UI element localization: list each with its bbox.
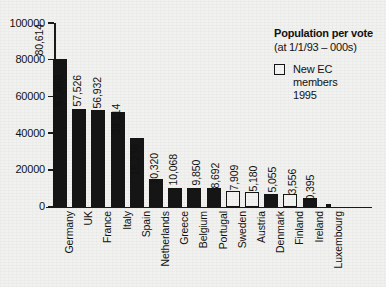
bar-value-label: 80,614: [34, 24, 45, 56]
bar-value-label: 57,959: [53, 75, 64, 107]
legend-entry-line-1: New EC: [293, 63, 337, 76]
x-axis-category-label: Greece: [179, 211, 190, 245]
bar-finland: 5,055: [283, 194, 297, 206]
legend-title: Population per vote: [274, 27, 373, 40]
bar-value-label: 7,909: [229, 164, 240, 190]
legend-swatch-hollow: [274, 64, 285, 75]
legend-entry-line-3: 1995: [293, 89, 337, 102]
x-axis-category-label: Spain: [141, 211, 152, 237]
bar-value-label: 10,320: [149, 153, 160, 185]
bar-value-label: 57,526: [72, 75, 83, 107]
legend-entry-line-2: members: [293, 76, 337, 89]
legend-entry-label: New EC members 1995: [293, 63, 337, 102]
x-axis-category-label: Sweden: [237, 211, 248, 248]
x-axis-category-label: Germany: [64, 211, 75, 253]
bar-value-label: 3,556: [286, 169, 297, 195]
bar-sweden: 8,692: [226, 191, 240, 207]
x-axis-category-label: Netherlands: [160, 211, 171, 267]
bar-belgium: 10,068: [187, 188, 201, 206]
bar-value-label: 10,068: [168, 154, 179, 186]
bar-austria: 7,909: [245, 192, 259, 207]
x-axis-category-label: Finland: [294, 211, 305, 245]
x-axis-category-label: UK: [83, 211, 94, 225]
chart-image: 020000400006000080000100000 80,614German…: [0, 0, 386, 287]
x-axis-category-label: Luxembourg: [333, 211, 344, 268]
bar-value-label: 9,850: [190, 160, 201, 186]
x-axis-category-label: Ireland: [314, 211, 325, 242]
x-axis-category-label: Denmark: [275, 211, 286, 253]
x-axis-category-label: Belgium: [198, 211, 209, 248]
chart-legend: Population per vote (at 1/1/93 – 000s) N…: [274, 27, 373, 102]
bar-value-label: 0,395: [305, 175, 316, 201]
legend-entry-new-ec-members: New EC members 1995: [274, 63, 373, 102]
bar-portugal: 9,850: [207, 188, 221, 206]
x-axis-category-label: France: [102, 211, 113, 243]
bar-greece: 10,320: [168, 188, 182, 207]
x-axis-category-label: Portugal: [218, 211, 229, 249]
x-axis-category-label: Austria: [256, 211, 267, 243]
bar-value-label: 5,180: [248, 166, 259, 192]
bar-value-label: 56,932: [91, 77, 102, 109]
bar-value-label: 15,238: [130, 144, 141, 176]
legend-subtitle: (at 1/1/93 – 000s): [274, 41, 373, 54]
bar-luxembourg: 0,395: [326, 204, 331, 207]
bar-value-label: 8,692: [209, 163, 220, 189]
x-axis-category-label: Italy: [122, 211, 133, 230]
bar-uk: 57,959: [72, 109, 86, 206]
bar-value-label: 39,114: [111, 104, 122, 135]
bar-denmark: 5,180: [264, 194, 278, 206]
bar-value-label: 5,055: [267, 166, 278, 192]
bar-france: 57,526: [91, 110, 105, 207]
